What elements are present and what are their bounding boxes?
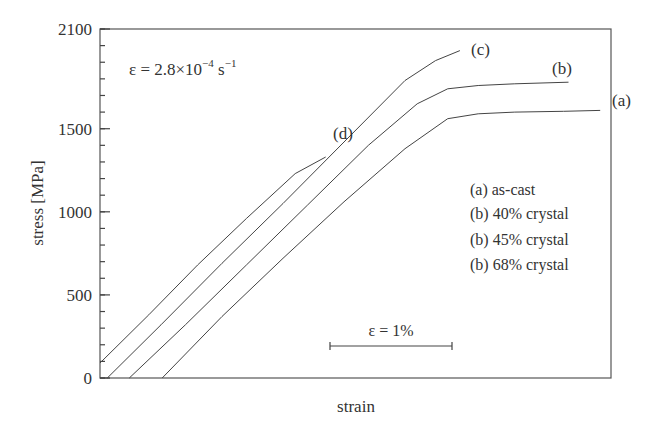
curve-label: (a) xyxy=(612,91,631,110)
x-axis-label: strain xyxy=(337,397,375,416)
legend-item: (b) 40% crystal xyxy=(470,205,569,223)
y-tick-label: 500 xyxy=(67,286,93,305)
stress-strain-chart: 0500100015002100 (a)(b)(c)(d) stress [MP… xyxy=(0,0,662,428)
curve-label: (d) xyxy=(333,124,353,143)
legend-item: (b) 68% crystal xyxy=(470,256,569,274)
curve-d xyxy=(100,157,326,363)
curve-labels: (a)(b)(c)(d) xyxy=(333,40,631,143)
curve-label: (c) xyxy=(471,40,490,59)
y-axis: 0500100015002100 xyxy=(58,20,110,388)
plot-frame xyxy=(100,29,611,378)
y-tick-label: 1000 xyxy=(58,203,92,222)
y-tick-label: 0 xyxy=(84,369,93,388)
strain-rate-annotation: ε = 2.8×10−4 s−1 xyxy=(129,57,236,79)
legend-item: (b) 45% crystal xyxy=(470,231,569,249)
legend-item: (a) as-cast xyxy=(470,181,536,199)
scale-bar-label: ε = 1% xyxy=(368,322,413,339)
y-tick-label: 2100 xyxy=(58,20,92,39)
legend: (a) as-cast (b) 40% crystal (b) 45% crys… xyxy=(470,181,569,274)
scale-bar: ε = 1% xyxy=(330,322,452,350)
y-axis-label: stress [MPa] xyxy=(28,160,47,245)
curve-label: (b) xyxy=(552,59,572,78)
y-tick-label: 1500 xyxy=(58,120,92,139)
